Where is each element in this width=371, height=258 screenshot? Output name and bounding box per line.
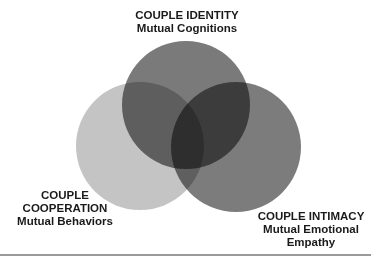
- label-title: COUPLE INTIMACY: [252, 210, 370, 223]
- circle-couple-identity: [122, 41, 250, 169]
- label-subtitle: Mutual Cognitions: [112, 22, 262, 35]
- label-subtitle: Empathy: [252, 236, 370, 249]
- venn-diagram: COUPLE IDENTITY Mutual Cognitions COUPLE…: [0, 0, 371, 258]
- label-title: COUPLE IDENTITY: [112, 9, 262, 22]
- label-couple-cooperation: COUPLE COOPERATION Mutual Behaviors: [2, 189, 128, 228]
- label-title: COUPLE: [2, 189, 128, 202]
- label-couple-identity: COUPLE IDENTITY Mutual Cognitions: [112, 9, 262, 35]
- label-title: COOPERATION: [2, 202, 128, 215]
- label-couple-intimacy: COUPLE INTIMACY Mutual Emotional Empathy: [252, 210, 370, 249]
- bottom-divider: [0, 254, 371, 256]
- label-subtitle: Mutual Emotional: [252, 223, 370, 236]
- label-subtitle: Mutual Behaviors: [2, 215, 128, 228]
